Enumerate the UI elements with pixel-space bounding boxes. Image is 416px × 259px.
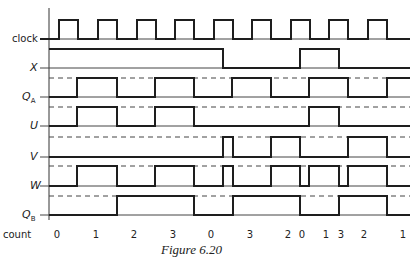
- signal-qb: QB: [22, 196, 410, 223]
- waveform-qa: [49, 78, 410, 97]
- count-value: 0: [54, 229, 60, 240]
- count-row: count 012303201321: [3, 229, 406, 240]
- waveform-v: [49, 137, 410, 157]
- count-value: 1: [400, 229, 406, 240]
- signal-label-clock: clock: [12, 33, 38, 44]
- signal-u: U: [30, 107, 410, 132]
- signal-waveforms: clockXQAUVWQB: [12, 20, 410, 223]
- waveform-qb: [49, 196, 410, 215]
- signal-label-u: U: [30, 119, 38, 132]
- count-value: 3: [338, 229, 344, 240]
- count-label: count: [3, 229, 31, 240]
- count-value: 2: [285, 229, 291, 240]
- signal-label-v: V: [30, 150, 39, 163]
- count-value: 3: [170, 229, 176, 240]
- count-value: 1: [93, 229, 99, 240]
- signal-v: V: [30, 137, 410, 163]
- signal-w: W: [30, 166, 410, 192]
- figure-caption: Figure 6.20: [160, 242, 222, 257]
- count-value: 1: [323, 229, 329, 240]
- count-value: 0: [208, 229, 214, 240]
- signal-label-qb: QB: [22, 208, 36, 223]
- count-value: 0: [299, 229, 305, 240]
- count-value: 2: [131, 229, 137, 240]
- waveform-x: [49, 49, 410, 68]
- signal-x: X: [29, 49, 410, 74]
- waveform-u: [49, 107, 410, 126]
- count-value: 2: [361, 229, 367, 240]
- waveform-w: [49, 166, 410, 186]
- signal-label-x: X: [29, 61, 38, 74]
- count-value: 3: [247, 229, 253, 240]
- signal-label-qa: QA: [22, 90, 36, 105]
- signal-qa: QA: [22, 78, 410, 105]
- waveform-clock: [40, 20, 410, 39]
- timing-diagram: clockXQAUVWQB count 012303201321 Figure …: [0, 0, 416, 259]
- signal-clock: clock: [12, 20, 410, 44]
